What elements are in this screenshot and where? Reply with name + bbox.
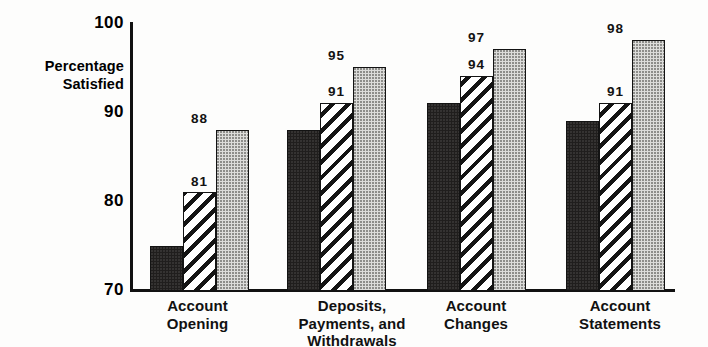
bar-value-label: 95	[328, 49, 345, 63]
bar-value-label: 81	[191, 175, 208, 189]
category-label-line-3: Withdrawals	[262, 332, 442, 347]
plot-area: 758188889195919497899198	[133, 22, 675, 291]
category-label-line-2: Changes	[406, 315, 546, 333]
y-tick-label-70: 70	[0, 281, 124, 298]
bar-series-2-1[interactable]	[320, 103, 353, 291]
bar-series-1-2[interactable]	[427, 103, 460, 291]
category-label-line-2: Opening	[130, 315, 265, 333]
bar-series-2-0[interactable]	[183, 192, 216, 291]
bar-series-1-0[interactable]	[150, 246, 183, 291]
y-tick-label-100: 100	[0, 14, 124, 31]
y-axis-title-line-2: Satisfied	[63, 76, 124, 92]
bar-value-label: 98	[607, 22, 624, 36]
bar-value-label: 88	[191, 112, 208, 126]
bar-series-2-3[interactable]	[599, 103, 632, 291]
bar-group: 919497	[427, 22, 526, 291]
y-tick-label-90: 90	[0, 103, 124, 120]
bar-series-3-1[interactable]	[353, 67, 386, 291]
y-axis-title: Percentage Satisfied	[0, 58, 124, 93]
y-tick-label-80: 80	[0, 192, 124, 209]
category-label-account-statements: Account Statements	[545, 297, 695, 332]
bar-series-3-0[interactable]	[216, 130, 249, 291]
bar-group: 899198	[566, 22, 665, 291]
bar-value-label: 91	[328, 85, 345, 99]
bar-value-label: 94	[468, 58, 485, 72]
category-label-line-1: Account	[545, 297, 695, 315]
bar-series-1-3[interactable]	[566, 121, 599, 291]
bar-value-label: 91	[607, 85, 624, 99]
category-label-account-changes: Account Changes	[406, 297, 546, 332]
category-label-line-2: Statements	[545, 315, 695, 333]
bar-chart: Percentage Satisfied 100 90 80 70 758188…	[0, 0, 708, 347]
bar-series-1-1[interactable]	[287, 130, 320, 291]
y-axis-title-line-1: Percentage	[45, 58, 124, 74]
bar-series-3-2[interactable]	[493, 49, 526, 291]
category-label-line-1: Account	[130, 297, 265, 315]
bar-series-3-3[interactable]	[632, 40, 665, 291]
bar-group: 889195	[287, 22, 386, 291]
category-label-line-1: Account	[406, 297, 546, 315]
bar-value-label: 97	[468, 31, 485, 45]
bar-series-2-2[interactable]	[460, 76, 493, 291]
category-label-account-opening: Account Opening	[130, 297, 265, 332]
bar-group: 758188	[150, 22, 249, 291]
